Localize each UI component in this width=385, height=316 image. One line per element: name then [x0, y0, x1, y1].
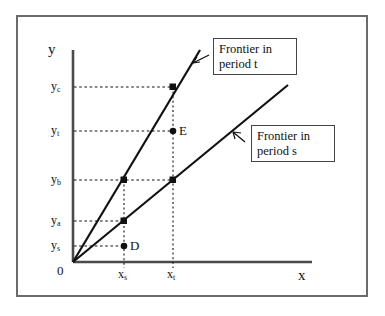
- y-tick-label-ya: ya: [51, 214, 61, 226]
- marker-yb-xs: [121, 177, 128, 184]
- x-tick-label-xt: xt: [167, 268, 175, 280]
- callout-frontier-t-line1: Frontier in: [219, 42, 291, 57]
- y-tick-label-yc: yc: [51, 80, 61, 92]
- callout-frontier-s-line2: period s: [257, 144, 329, 159]
- x-axis-label: x: [298, 268, 306, 283]
- y-tick-label-yb: yb: [51, 173, 61, 185]
- frontier-s-pointer-arrow: [233, 132, 245, 142]
- x-tick-label-xs: xs: [118, 268, 127, 280]
- callout-frontier-s-line1: Frontier in: [257, 129, 329, 144]
- frontier-period-t-line: [73, 50, 200, 262]
- callout-frontier-period-t: Frontier in period t: [213, 38, 297, 75]
- marker-yc-xt: [170, 84, 177, 91]
- point-label-D: D: [130, 239, 139, 252]
- marker-yb-xt: [170, 177, 177, 184]
- y-tick-label-yt: yt: [51, 124, 59, 136]
- point-label-E: E: [179, 124, 187, 137]
- callout-frontier-period-s: Frontier in period s: [251, 125, 335, 162]
- data-point-markers: [121, 84, 177, 250]
- marker-E: [170, 128, 177, 135]
- origin-label: 0: [57, 264, 64, 277]
- figure-root: y x 0 yc yt yb ya ys xs xt D E Frontier …: [0, 0, 385, 316]
- marker-ya-xs: [121, 218, 128, 225]
- y-axis-label: y: [48, 42, 56, 57]
- callout-frontier-t-line2: period t: [219, 57, 291, 72]
- y-tick-label-ys: ys: [51, 239, 60, 251]
- marker-D: [121, 243, 128, 250]
- frontier-period-s-line: [73, 85, 288, 262]
